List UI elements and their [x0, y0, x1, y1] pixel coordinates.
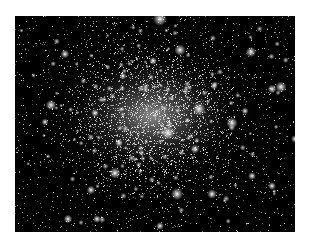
star-field: [15, 16, 295, 232]
star-cluster-photo: [15, 16, 295, 232]
